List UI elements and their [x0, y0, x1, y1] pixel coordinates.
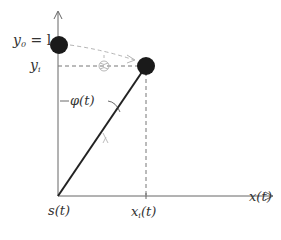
yi-sub: i [38, 65, 41, 74]
origin-label: s(t) [48, 204, 70, 217]
y0-base: y [13, 32, 21, 48]
x-axis-label: x(t) [249, 190, 272, 203]
faint-mark-icon [103, 133, 108, 143]
initial-mass [50, 36, 68, 54]
trajectory-arrow-icon [127, 55, 135, 63]
pendulum-rod [58, 72, 142, 196]
x-axis-text: x(t) [249, 189, 272, 204]
phi-text: φ(t) [70, 93, 94, 108]
yi-base: y [30, 57, 38, 73]
xi-rest: (t) [141, 204, 156, 219]
current-mass [137, 57, 155, 75]
origin-text: s(t) [48, 203, 70, 218]
rotation-marker-icon [99, 55, 109, 71]
y0-rest: = l [26, 32, 51, 48]
phi-label: φ(t) [70, 94, 94, 107]
y0-equals-l-label: y0 = l [13, 33, 51, 49]
trajectory-arc [70, 45, 134, 60]
xi-label: xi(t) [131, 205, 156, 220]
yi-label: yi [30, 58, 40, 74]
